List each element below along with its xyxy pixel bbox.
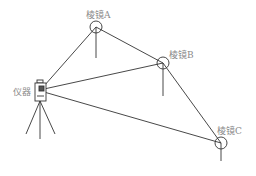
line-b-c <box>163 63 221 143</box>
line-instrument-c <box>44 92 221 143</box>
line-instrument-b <box>44 63 163 89</box>
prism-b-label: 棱镜B <box>169 49 194 60</box>
prism-c-label: 棱镜C <box>217 125 242 136</box>
sight-lines <box>44 27 221 143</box>
prism-a-label: 棱镜A <box>86 9 111 20</box>
survey-diagram: 棱镜A 棱镜B 棱镜C 仪器 <box>0 0 256 176</box>
tripod-leg-left <box>26 101 40 134</box>
prism-a <box>90 21 102 58</box>
instrument-label: 仪器 <box>13 87 31 97</box>
tripod-leg-right <box>40 101 55 134</box>
prism-c <box>215 137 227 161</box>
line-instrument-a <box>44 27 96 86</box>
line-a-b <box>96 27 163 63</box>
instrument-lens-icon <box>39 86 44 91</box>
tripod-icon <box>26 101 55 139</box>
